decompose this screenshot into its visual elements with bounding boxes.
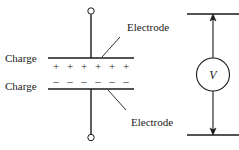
plus-sign-2: +	[67, 60, 73, 72]
top-electrode-leader-line	[102, 37, 120, 57]
plus-sign-1: +	[53, 60, 59, 72]
minus-sign-6: –	[122, 75, 129, 87]
top-terminal-circle-icon	[88, 8, 94, 14]
bottom-electrode-label: Electrode	[131, 116, 173, 128]
minus-sign-1: –	[52, 75, 59, 87]
plus-sign-6: +	[123, 60, 129, 72]
top-electrode-label: Electrode	[127, 21, 169, 33]
negative-charge-row: – – – – – –	[52, 75, 129, 87]
capacitor-voltmeter-diagram: + + + + + + – – – – – – Electrode Electr…	[0, 0, 239, 150]
minus-sign-5: –	[108, 75, 115, 87]
positive-charge-row: + + + + + +	[53, 60, 129, 72]
plus-sign-4: +	[95, 60, 101, 72]
plus-sign-3: +	[81, 60, 87, 72]
plus-sign-5: +	[109, 60, 115, 72]
bottom-electrode-leader-line	[108, 90, 126, 110]
minus-sign-2: –	[66, 75, 73, 87]
bottom-terminal-circle-icon	[88, 134, 94, 140]
positive-charge-label: Charge	[5, 52, 37, 64]
negative-charge-label: Charge	[5, 80, 37, 92]
figure-canvas: + + + + + + – – – – – – Electrode Electr…	[0, 0, 239, 150]
minus-sign-4: –	[94, 75, 101, 87]
minus-sign-3: –	[80, 75, 87, 87]
